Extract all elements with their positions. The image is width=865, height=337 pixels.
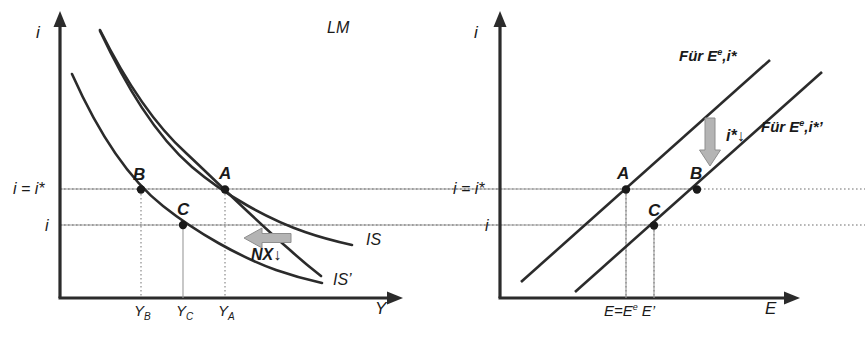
curve-is-prime [72, 74, 322, 283]
left-point-label-A: A [219, 165, 231, 182]
left-xtick-YC-sub: C [186, 311, 193, 322]
line-label-lower-suffix: ,i*’ [804, 118, 822, 135]
left-ytick-i: i [45, 218, 49, 234]
curve-label-is-prime: IS’ [333, 272, 352, 288]
right-xtick-E-prime: E’ [638, 302, 655, 319]
left-ytick-i-star: i = i* [13, 181, 45, 197]
left-xtick-YB: YB [134, 303, 151, 322]
left-x-axis-arrowhead [387, 292, 403, 305]
line-label-parity-upper: Für Ee,i* [679, 48, 737, 63]
left-point-label-C: C [177, 201, 189, 218]
right-ytick-i: i [485, 218, 489, 234]
left-point-B-marker [137, 185, 145, 193]
left-xtick-YB-sub: B [144, 311, 151, 322]
right-point-B-marker [693, 185, 701, 193]
curve-label-lm: LM [327, 20, 349, 36]
right-y-axis-arrowhead [494, 11, 507, 27]
left-x-axis-label: Y [375, 300, 386, 317]
right-point-label-A: A [617, 165, 629, 182]
line-label-parity-lower: Für Ee,i*’ [761, 119, 823, 134]
left-point-C-marker [179, 221, 187, 229]
left-xtick-YA: YA [218, 303, 235, 322]
left-xtick-YC-base: Y [176, 302, 186, 319]
economics-figure: i Y i = i* i YB YC YA LM IS IS’ B A C NX… [0, 0, 865, 337]
line-label-upper-suffix: ,i* [722, 47, 736, 64]
line-label-upper-prefix: Für E [679, 47, 717, 64]
right-point-label-C: C [648, 202, 660, 219]
left-xtick-YA-sub: A [228, 311, 235, 322]
line-label-lower-prefix: Für E [761, 118, 799, 135]
right-ytick-i-star: i = i* [453, 181, 485, 197]
right-y-axis-label: i [474, 24, 478, 41]
left-y-axis-arrowhead [54, 11, 67, 27]
left-point-A-marker [221, 185, 229, 193]
left-point-label-B: B [133, 166, 145, 183]
right-panel-group [494, 11, 823, 305]
right-xtick-E-group: E=EeE’ [604, 303, 655, 318]
right-x-axis-arrowhead [784, 292, 800, 305]
right-x-axis-label: E [765, 300, 776, 317]
curve-label-is: IS [366, 232, 381, 248]
right-point-A-marker [622, 185, 630, 193]
curve-is [100, 31, 352, 245]
left-y-axis-label: i [36, 24, 40, 41]
i-star-shift-arrow [700, 118, 721, 166]
left-xtick-YA-base: Y [218, 302, 228, 319]
right-xtick-E-base: E=E [604, 302, 633, 319]
right-point-label-B: B [690, 165, 702, 182]
line-parity-upper [521, 60, 770, 282]
left-xtick-YC: YC [176, 303, 193, 322]
left-xtick-YB-base: Y [134, 302, 144, 319]
i-star-shift-label: i*↓ [726, 128, 745, 144]
left-panel-group [54, 11, 404, 305]
nx-shift-label: NX↓ [251, 247, 281, 263]
right-point-C-marker [650, 221, 658, 229]
